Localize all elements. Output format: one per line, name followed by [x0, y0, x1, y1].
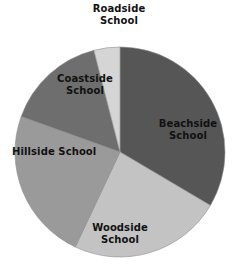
pie-chart-canvas: [0, 0, 238, 275]
pie-chart: RoadsideSchool CoastsideSchool Beachside…: [0, 0, 238, 275]
pie-slices-group: [15, 47, 225, 257]
